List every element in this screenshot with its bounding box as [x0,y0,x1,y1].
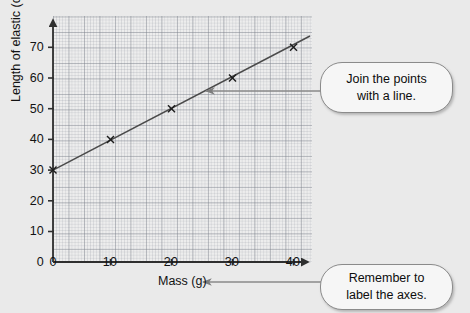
callout-label-line1: Remember to [349,270,425,287]
x-tick-label-20: 20 [158,255,184,269]
callout-label-line2: label the axes. [346,287,427,304]
x-tick-label-10: 10 [97,255,123,269]
worksheet-graph-page: 70 60 50 40 30 20 10 0 0 10 20 30 40 Len… [0,0,470,313]
best-fit-line [53,36,310,170]
callout-label-the-axes: Remember to label the axes. [320,264,453,310]
y-axis-title: Length of elastic (cm) [9,0,23,102]
y-tick-label-30: 30 [18,163,44,177]
y-tick-label-40: 40 [18,132,44,146]
x-tick-label-0: 0 [40,255,66,269]
x-tick-label-30: 30 [219,255,245,269]
data-point-markers [50,44,298,174]
y-tick-label-50: 50 [18,102,44,116]
callout-join-the-points: Join the points with a line. [320,62,453,113]
callout-join-line2: with a line. [357,88,416,105]
data-point-20-50 [168,105,175,112]
y-tick-label-10: 10 [18,224,44,238]
y-tick-label-20: 20 [18,194,44,208]
x-axis-title: Mass (g) [158,274,207,288]
x-tick-label-40: 40 [280,255,306,269]
callout-join-line1: Join the points [346,71,427,88]
